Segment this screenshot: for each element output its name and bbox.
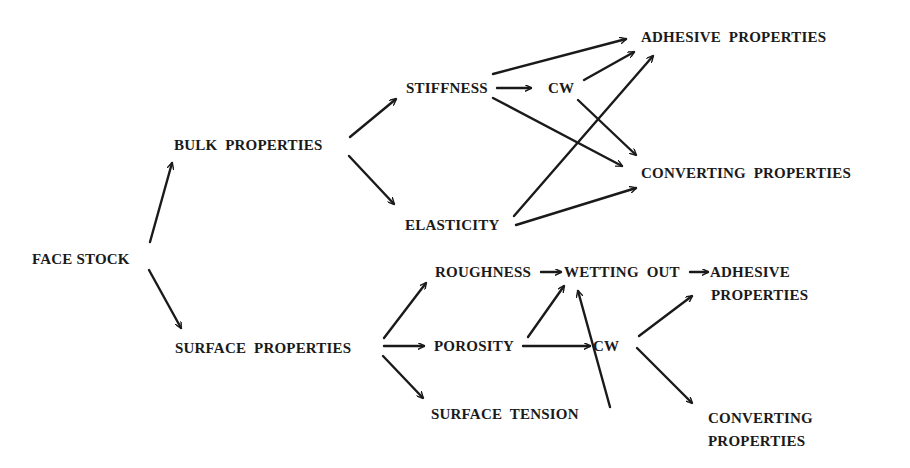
arrow-bulk-properties-to-elasticity <box>349 156 394 204</box>
node-surface-properties: SURFACE PROPERTIES <box>175 339 351 357</box>
node-stiffness: STIFFNESS <box>406 79 488 97</box>
arrow-surface-properties-to-roughness <box>384 283 426 338</box>
node-converting-properties-top: CONVERTING PROPERTIES <box>641 164 851 182</box>
face-stock-properties-diagram: FACE STOCK BULK PROPERTIES SURFACE PROPE… <box>0 0 910 468</box>
arrow-porosity-to-wetting-out <box>528 286 564 337</box>
arrow-face-stock-to-bulk-properties <box>150 163 172 242</box>
arrow-cw-top-to-adhesive-properties-top <box>584 52 634 80</box>
node-adhesive-bottom-line2: PROPERTIES <box>711 286 808 304</box>
arrow-cw-bottom-to-converting-bottom-line1 <box>637 348 692 403</box>
node-roughness: ROUGHNESS <box>435 263 531 281</box>
arrow-cw-bottom-to-adhesive-bottom-line1 <box>639 296 692 336</box>
node-adhesive-bottom-line1: ADHESIVE <box>710 263 790 281</box>
arrow-surface-properties-to-surface-tension <box>383 356 423 398</box>
arrow-face-stock-to-surface-properties <box>149 270 181 328</box>
node-wetting-out: WETTING OUT <box>564 263 680 281</box>
node-bulk-properties: BULK PROPERTIES <box>174 136 323 154</box>
arrow-bulk-properties-to-stiffness <box>350 99 396 137</box>
node-face-stock: FACE STOCK <box>32 250 130 268</box>
node-surface-tension: SURFACE TENSION <box>431 405 579 423</box>
node-porosity: POROSITY <box>434 337 514 355</box>
node-adhesive-properties-top: ADHESIVE PROPERTIES <box>641 28 826 46</box>
node-cw-top: CW <box>548 79 574 97</box>
node-converting-bottom-line1: CONVERTING <box>708 409 813 427</box>
node-elasticity: ELASTICITY <box>405 216 500 234</box>
edges-layer <box>0 0 910 468</box>
node-cw-bottom: CW <box>593 337 619 355</box>
node-converting-bottom-line2: PROPERTIES <box>708 432 805 450</box>
arrow-stiffness-to-converting-properties-top <box>493 98 622 166</box>
